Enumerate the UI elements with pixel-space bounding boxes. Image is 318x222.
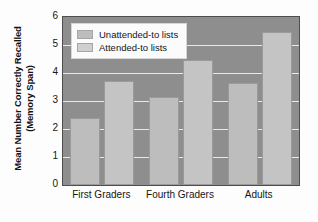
bar <box>149 97 179 185</box>
bar <box>104 81 134 185</box>
plot-area: Unattended-to lists Attended-to lists <box>62 16 300 186</box>
y-tick-label: 1 <box>52 151 58 161</box>
legend-swatch-attended <box>77 43 93 52</box>
bar <box>262 32 292 185</box>
y-tick-label: 2 <box>52 123 58 133</box>
y-axis-title-line-1: Mean Number Correctly Recalled <box>12 26 23 170</box>
bar <box>70 118 100 185</box>
y-tick-label: 5 <box>52 39 58 49</box>
legend-label-unattended: Unattended-to lists <box>99 29 178 40</box>
bar-chart-figure: Mean Number Correctly Recalled (Memory S… <box>0 0 318 222</box>
y-axis-title-text: Mean Number Correctly Recalled (Memory S… <box>12 26 35 170</box>
x-axis-tick-labels: First GradersFourth GradersAdults <box>62 189 300 209</box>
y-tick-label: 0 <box>52 179 58 189</box>
y-axis-title: Mean Number Correctly Recalled (Memory S… <box>0 0 46 196</box>
bar <box>228 83 258 185</box>
legend-item-unattended: Unattended-to lists <box>77 28 178 41</box>
legend-item-attended: Attended-to lists <box>77 41 178 54</box>
x-tick-label: Fourth Graders <box>146 189 214 201</box>
y-tick-label: 4 <box>52 67 58 77</box>
bar <box>183 60 213 185</box>
y-axis-tick-labels: 0123456 <box>44 0 60 196</box>
legend-label-attended: Attended-to lists <box>99 42 167 53</box>
y-axis-title-line-2: (Memory Span) <box>23 26 35 170</box>
legend-swatch-unattended <box>77 30 93 39</box>
y-tick-label: 6 <box>52 11 58 21</box>
y-tick-label: 3 <box>52 95 58 105</box>
x-tick-label: Adults <box>245 189 273 201</box>
x-tick-label: First Graders <box>72 189 130 201</box>
legend: Unattended-to lists Attended-to lists <box>71 23 187 59</box>
